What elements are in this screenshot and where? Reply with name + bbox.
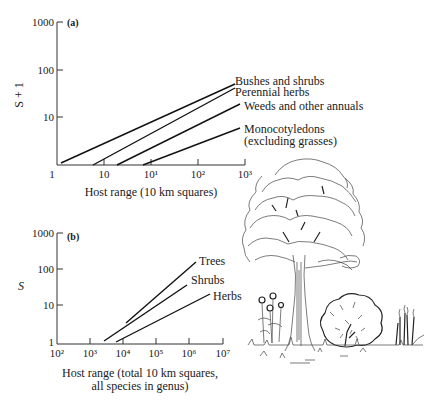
series-label-perennial: Perennial herbs	[235, 85, 310, 99]
series-line-bushes	[61, 84, 235, 163]
panel-label-b: (b)	[67, 231, 79, 243]
herb-icon	[258, 293, 284, 343]
series-label-shrubs: Shrubs	[191, 273, 225, 287]
series-line-trees	[126, 262, 196, 323]
x-axis-title-a: Host range (10 km squares)	[85, 185, 218, 199]
x-tick-label: 10⁴	[116, 347, 131, 359]
y-axis-title-b: S	[18, 279, 24, 293]
y-tick-label: 100	[38, 64, 55, 76]
series-label-trees: Trees	[199, 254, 226, 268]
x-tick-label: 10⁶	[182, 347, 197, 359]
x-tick-label: 10²	[50, 347, 65, 359]
panel-label-a: (a)	[67, 17, 79, 29]
series-label-herbs: Herbs	[213, 289, 242, 303]
series-line-shrubs	[104, 285, 187, 341]
x-tick-label: 10¹	[144, 168, 158, 180]
x-tick-label: 10³	[83, 347, 98, 359]
x-tick-label: 10⁵	[149, 347, 164, 359]
series-line-perennial	[93, 88, 235, 165]
y-tick-label: 10	[43, 299, 55, 311]
series-label-monocots-note: (excluding grasses)	[244, 134, 337, 148]
y-tick-label: 100	[38, 263, 55, 275]
shrub-icon	[320, 294, 382, 347]
x-tick-label: 10²	[191, 168, 206, 180]
y-tick-label: 1000	[32, 227, 55, 239]
x-tick-label: 10	[99, 168, 111, 180]
grass-icon	[396, 305, 424, 345]
x-tick-label: 10⁷	[216, 347, 231, 359]
series-line-monocots	[143, 128, 240, 165]
y-tick-label: 1000	[32, 16, 55, 28]
series-label-weeds: Weeds and other annuals	[244, 99, 364, 113]
chart-panel-b: (b) 1000 100 10 1 10² 10³ 10⁴ 10⁵ 10⁶ 10…	[18, 227, 242, 393]
x-axis-title-b-line1: Host range (total 10 km squares,	[62, 366, 218, 380]
figure: (a) 1000 100 10 1 10 10¹ 10² 10³ S + 1 H…	[0, 0, 442, 409]
x-origin-label: 1	[49, 168, 55, 180]
y-axis-title-a: S + 1	[12, 82, 26, 107]
tree-shrub-herb-illustration	[242, 159, 424, 363]
chart-panel-a: (a) 1000 100 10 1 10 10¹ 10² 10³ S + 1 H…	[12, 16, 364, 199]
x-tick-label: 10³	[238, 168, 253, 180]
x-axis-title-b-line2: all species in genus)	[92, 379, 189, 393]
y-tick-label: 10	[43, 111, 55, 123]
tree-icon	[242, 159, 364, 351]
